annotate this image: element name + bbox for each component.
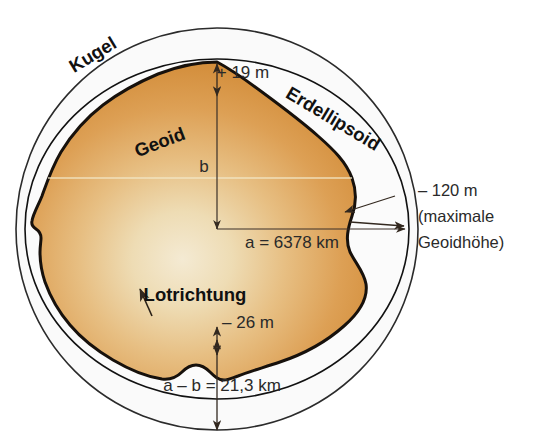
geoid-diagram: Kugel Geoid Erdellipsoid Lotrichtung b +… bbox=[0, 0, 539, 445]
diagram-canvas: Kugel Geoid Erdellipsoid Lotrichtung b +… bbox=[0, 0, 539, 445]
label-semi-major-axis: a = 6378 km bbox=[245, 233, 339, 252]
label-max-geoid-height-note2: Geoidhöhe) bbox=[418, 233, 504, 251]
label-max-geoid-height-value: – 120 m bbox=[418, 181, 478, 199]
label-flattening: a – b = 21,3 km bbox=[163, 376, 281, 395]
label-lotrichtung: Lotrichtung bbox=[144, 284, 247, 305]
label-semi-minor-axis: b bbox=[199, 157, 208, 176]
label-geoid-high: + 19 m bbox=[217, 63, 269, 82]
label-max-geoid-height-note1: (maximale bbox=[418, 207, 494, 225]
label-geoid-low: – 26 m bbox=[222, 313, 274, 332]
